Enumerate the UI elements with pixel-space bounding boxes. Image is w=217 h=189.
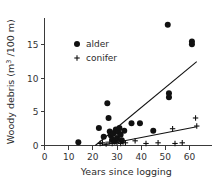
woody-debris-scatter-figure: 0510150102030405060 alderconifer Years s… bbox=[0, 0, 217, 189]
plot-canvas: 0510150102030405060 alderconifer Years s… bbox=[0, 0, 217, 189]
x-tick-label-60: 60 bbox=[184, 152, 196, 162]
point-alder bbox=[129, 120, 135, 126]
x-tick-label-40: 40 bbox=[135, 152, 147, 162]
x-tick-label-20: 20 bbox=[87, 152, 99, 162]
legend-label-conifer: conifer bbox=[86, 53, 117, 63]
x-tick-label-0: 0 bbox=[42, 152, 48, 162]
point-alder bbox=[150, 128, 156, 134]
point-alder bbox=[101, 134, 107, 140]
legend-marker-alder bbox=[74, 41, 80, 47]
x-tick-label-30: 30 bbox=[111, 152, 123, 162]
x-tick-label-50: 50 bbox=[160, 152, 172, 162]
point-alder bbox=[165, 22, 171, 28]
point-alder bbox=[166, 94, 172, 100]
point-alder bbox=[104, 100, 110, 106]
point-conifer bbox=[155, 140, 160, 145]
x-tick-label-10: 10 bbox=[63, 152, 75, 162]
y-tick-label-10: 10 bbox=[27, 74, 39, 84]
point-alder bbox=[96, 125, 102, 131]
x-axis-title: Years since logging bbox=[80, 166, 172, 177]
point-conifer bbox=[180, 140, 185, 145]
legend: alderconifer bbox=[74, 39, 117, 63]
y-axis-title: Woody debris (m3 /100 m) bbox=[5, 19, 16, 144]
y-tick-label-5: 5 bbox=[33, 107, 39, 117]
legend-label-alder: alder bbox=[86, 39, 109, 49]
y-tick-label-15: 15 bbox=[27, 40, 38, 50]
point-alder bbox=[137, 120, 143, 126]
point-alder bbox=[121, 128, 127, 134]
y-tick-label-0: 0 bbox=[33, 141, 39, 151]
point-alder bbox=[75, 139, 81, 145]
point-conifer bbox=[194, 123, 199, 128]
point-alder bbox=[106, 115, 112, 121]
point-conifer bbox=[193, 115, 198, 120]
point-alder bbox=[189, 41, 195, 47]
